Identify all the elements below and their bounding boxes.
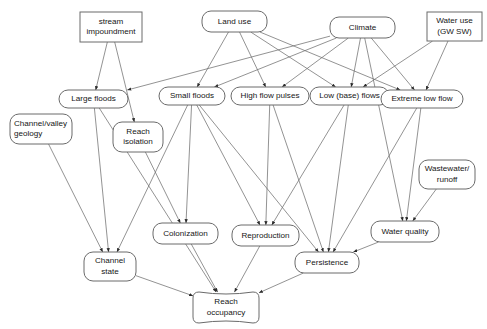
node-label-water_use: Water use bbox=[436, 16, 473, 25]
node-low_base_flows[interactable]: Low (base) flows bbox=[310, 87, 389, 105]
node-label-wastewater_runoff: runoff bbox=[437, 175, 458, 184]
node-small_floods[interactable]: Small floods bbox=[159, 87, 225, 105]
diagram-canvas: streamimpoundmentLand useClimateWater us… bbox=[0, 0, 487, 329]
node-label-large_floods: Large floods bbox=[71, 94, 116, 103]
node-high_flow_pulses[interactable]: High flow pulses bbox=[231, 87, 309, 105]
node-label-persistence: Persistence bbox=[306, 258, 349, 267]
node-land_use[interactable]: Land use bbox=[202, 11, 267, 32]
edge-climate-to-low_base_flows bbox=[351, 38, 360, 87]
node-label-reach_occupancy: occupancy bbox=[207, 308, 247, 317]
node-label-land_use: Land use bbox=[218, 17, 252, 26]
edge-channel_state-to-reach_occupancy bbox=[136, 276, 193, 296]
edge-wastewater_runoff-to-water_quality bbox=[413, 189, 437, 221]
edge-colonization-to-reach_occupancy bbox=[191, 244, 217, 292]
node-label-extreme_low_flow: Extreme low flow bbox=[391, 94, 452, 103]
edge-stream_impoundment-to-large_floods bbox=[96, 42, 108, 90]
node-label-stream_impoundment: impoundment bbox=[86, 27, 136, 36]
node-label-high_flow_pulses: High flow pulses bbox=[241, 91, 300, 100]
node-reach_isolation[interactable]: Reachisolation bbox=[113, 122, 163, 152]
node-climate[interactable]: Climate bbox=[330, 17, 395, 38]
edge-small_floods-to-colonization bbox=[186, 105, 192, 223]
edge-climate-to-extreme_low_flow bbox=[371, 38, 414, 90]
node-channel_state[interactable]: Channelstate bbox=[84, 252, 136, 281]
edge-reproduction-to-reach_occupancy bbox=[235, 246, 260, 292]
node-label-channel_state: state bbox=[101, 267, 119, 276]
node-label-reach_isolation: isolation bbox=[123, 137, 153, 146]
node-wastewater_runoff[interactable]: Wastewater/runoff bbox=[419, 160, 475, 189]
edge-climate-to-water_quality bbox=[365, 38, 403, 221]
node-extreme_low_flow[interactable]: Extreme low flow bbox=[381, 90, 463, 108]
node-label-climate: Climate bbox=[349, 23, 377, 32]
edge-water_quality-to-persistence bbox=[353, 242, 378, 252]
node-label-channel_valley_geology: Channel/valley bbox=[14, 119, 68, 128]
node-label-reach_occupancy: Reach bbox=[214, 297, 237, 306]
edge-climate-to-small_floods bbox=[214, 38, 336, 87]
edge-water_use-to-extreme_low_flow bbox=[426, 41, 448, 90]
edge-high_flow_pulses-to-reproduction bbox=[266, 105, 270, 225]
node-label-wastewater_runoff: Wastewater/ bbox=[425, 164, 470, 173]
edge-persistence-to-reach_occupancy bbox=[259, 273, 303, 293]
flow-diagram: streamimpoundmentLand useClimateWater us… bbox=[0, 0, 487, 329]
node-label-low_base_flows: Low (base) flows bbox=[319, 91, 380, 100]
edge-small_floods-to-reproduction bbox=[197, 105, 260, 225]
edge-channel_valley_geology-to-channel_state bbox=[49, 144, 103, 252]
node-label-reproduction: Reproduction bbox=[241, 231, 289, 240]
node-water_use[interactable]: Water use(GW SW) bbox=[427, 12, 482, 41]
node-reproduction[interactable]: Reproduction bbox=[232, 225, 299, 246]
node-channel_valley_geology[interactable]: Channel/valleygeology bbox=[10, 114, 72, 144]
node-persistence[interactable]: Persistence bbox=[295, 252, 359, 273]
node-stream_impoundment[interactable]: streamimpoundment bbox=[80, 12, 142, 42]
edge-water_use-to-low_base_flows bbox=[363, 41, 432, 87]
edge-reach_isolation-to-colonization bbox=[145, 152, 180, 223]
edge-climate-to-large_floods bbox=[127, 36, 330, 90]
node-large_floods[interactable]: Large floods bbox=[59, 90, 128, 108]
node-label-water_use: (GW SW) bbox=[437, 27, 472, 36]
node-label-colonization: Colonization bbox=[163, 229, 208, 238]
node-layer: streamimpoundmentLand useClimateWater us… bbox=[10, 11, 482, 323]
node-reach_occupancy[interactable]: Reachoccupancy bbox=[193, 292, 259, 323]
node-label-reach_isolation: Reach bbox=[126, 127, 149, 136]
node-colonization[interactable]: Colonization bbox=[153, 223, 218, 244]
edge-stream_impoundment-to-reach_isolation bbox=[115, 42, 135, 122]
node-label-channel_valley_geology: geology bbox=[14, 129, 43, 138]
node-label-water_quality: Water quality bbox=[382, 227, 430, 236]
node-label-small_floods: Small floods bbox=[170, 91, 214, 100]
node-water_quality[interactable]: Water quality bbox=[371, 221, 439, 242]
node-label-stream_impoundment: stream bbox=[99, 17, 124, 26]
node-label-channel_state: Channel bbox=[95, 256, 125, 265]
edge-low_base_flows-to-persistence bbox=[328, 105, 348, 252]
edge-large_floods-to-channel_state bbox=[94, 108, 108, 252]
edge-extreme_low_flow-to-water_quality bbox=[406, 108, 421, 221]
edge-land_use-to-small_floods bbox=[197, 32, 228, 87]
